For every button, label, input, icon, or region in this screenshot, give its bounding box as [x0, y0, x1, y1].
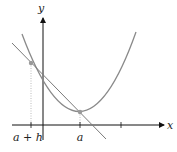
secant-diagram: y x a + h a [0, 0, 177, 152]
x-axis-label: x [167, 119, 174, 132]
point-a [78, 110, 82, 114]
point-a-plus-h [29, 61, 33, 65]
tick-label-a-plus-h: a + h [13, 131, 43, 144]
tick-label-a: a [77, 131, 84, 144]
y-axis-label: y [37, 2, 45, 15]
parabola-curve [22, 32, 136, 112]
